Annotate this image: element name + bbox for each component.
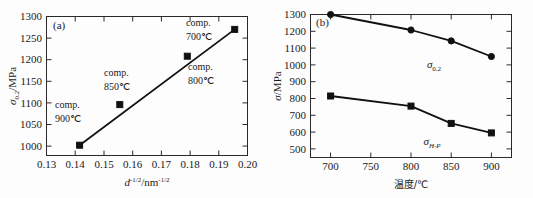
annotation-a-800c-line1: comp.: [188, 61, 213, 72]
x-axis-exp2-a: -1/2: [158, 176, 170, 184]
data-point-a-900c: [77, 142, 83, 148]
svg-text:σ0.2/MPa: σ0.2/MPa: [6, 67, 21, 105]
y-axis-ticks-a: [47, 17, 248, 147]
annotation-a-700c-line2: 700℃: [186, 31, 212, 42]
regression-line-a: [80, 29, 235, 145]
y-tick-label-a-3: 1150: [20, 75, 42, 87]
data-point-b-s02-900: [488, 53, 494, 59]
y-tick-label-a-0: 1000: [20, 140, 43, 152]
annotation-a-900c: comp. 900℃: [55, 99, 81, 124]
series-label-sigma02: σ0.2: [427, 58, 442, 73]
y-tick-label-b-7: 1200: [284, 25, 307, 37]
data-point-b-s02-700: [328, 11, 334, 17]
series-line-sigmahp: [331, 96, 492, 133]
x-tick-label-a-5: 0.18: [180, 158, 200, 170]
y-tick-label-a-2: 1100: [20, 97, 42, 109]
y-tick-label-b-5: 1000: [284, 59, 307, 71]
chart-panel-a: 0.13 0.14 0.15 0.16 0.17 0.18 0.19 0.20 …: [0, 0, 266, 198]
x-tick-label-b-2: 800: [403, 160, 420, 172]
data-point-a-850c: [117, 102, 123, 108]
x-axis-title-a: d-1/2/nm-1/2: [124, 176, 170, 188]
y-tick-label-a-4: 1200: [20, 53, 43, 65]
svg-text:σ/MPa: σ/MPa: [271, 71, 283, 100]
y-tick-label-b-2: 700: [290, 109, 307, 121]
x-tick-label-a-6: 0.19: [209, 158, 229, 170]
data-point-b-s02-800: [408, 27, 414, 33]
x-tick-label-a-3: 0.16: [123, 158, 143, 170]
panel-tag-a: (a): [53, 19, 66, 32]
y-axis-title-b: σ/MPa: [271, 71, 283, 100]
y-axis-unit-b: /MPa: [271, 71, 283, 95]
data-point-b-shp-700: [328, 93, 334, 99]
annotation-a-800c-line2: 800℃: [188, 75, 214, 86]
annotation-a-850c: comp. 850℃: [104, 67, 130, 92]
y-axis-title-a: σ0.2/MPa: [6, 67, 21, 105]
annotation-a-700c: comp. 700℃: [186, 17, 212, 42]
x-tick-label-a-1: 0.14: [66, 158, 86, 170]
annotation-a-900c-line1: comp.: [55, 99, 80, 110]
chart-panel-b: 700 750 800 850 900 500 600 700 800 900 …: [266, 0, 533, 198]
x-tick-label-b-3: 850: [443, 160, 460, 172]
y-tick-label-b-6: 1100: [284, 42, 306, 54]
panel-tag-b: (b): [316, 16, 329, 29]
annotation-a-850c-line1: comp.: [104, 67, 129, 78]
data-point-b-shp-800: [408, 103, 414, 109]
y-axis-ticks-b: [311, 15, 512, 149]
y-tick-label-a-5: 1250: [20, 32, 43, 44]
y-tick-label-a-1: 1050: [20, 118, 43, 130]
x-axis-mid-a: /nm: [141, 176, 159, 188]
x-tick-label-b-1: 750: [363, 160, 380, 172]
data-point-b-s02-850: [448, 38, 454, 44]
series-line-sigma02: [331, 15, 492, 57]
x-tick-label-b-4: 900: [483, 160, 500, 172]
annotation-a-700c-line1: comp.: [186, 17, 211, 28]
x-tick-label-a-0: 0.13: [37, 158, 57, 170]
x-axis-ticks-a: [47, 17, 248, 156]
series-label-sigmahp-sub: H-P: [428, 142, 441, 150]
x-axis-ticks-b: [331, 15, 492, 158]
data-point-a-800c: [184, 53, 190, 59]
series-label-sigma02-sub: 0.2: [432, 65, 441, 73]
x-tick-label-a-7: 0.20: [238, 158, 258, 170]
x-tick-label-a-4: 0.17: [152, 158, 172, 170]
chart-a-svg: 0.13 0.14 0.15 0.16 0.17 0.18 0.19 0.20 …: [0, 0, 266, 198]
annotation-a-900c-line2: 900℃: [55, 113, 81, 124]
y-tick-label-a-6: 1300: [20, 10, 43, 22]
y-tick-label-b-3: 800: [290, 92, 307, 104]
data-point-b-shp-900: [488, 130, 494, 136]
series-label-sigmahp: σH-P: [423, 135, 441, 150]
plot-frame-b: [311, 15, 512, 158]
x-axis-exp1-a: -1/2: [130, 176, 142, 184]
plot-frame-a: [47, 17, 248, 156]
data-point-b-shp-850: [448, 120, 454, 126]
y-tick-label-b-8: 1300: [284, 8, 307, 20]
x-tick-label-b-0: 700: [322, 160, 339, 172]
y-axis-unit-a: /MPa: [6, 67, 18, 91]
annotation-a-850c-line2: 850℃: [104, 81, 130, 92]
x-axis-title-b: 温度/℃: [394, 178, 429, 190]
x-tick-label-a-2: 0.15: [94, 158, 114, 170]
data-point-a-700c: [232, 26, 238, 32]
y-tick-label-b-1: 600: [290, 126, 307, 138]
figure-container: 0.13 0.14 0.15 0.16 0.17 0.18 0.19 0.20 …: [0, 0, 533, 198]
chart-b-svg: 700 750 800 850 900 500 600 700 800 900 …: [266, 0, 533, 198]
annotation-a-800c: comp. 800℃: [188, 61, 214, 86]
y-tick-label-b-4: 900: [290, 75, 307, 87]
y-tick-label-b-0: 500: [290, 143, 307, 155]
